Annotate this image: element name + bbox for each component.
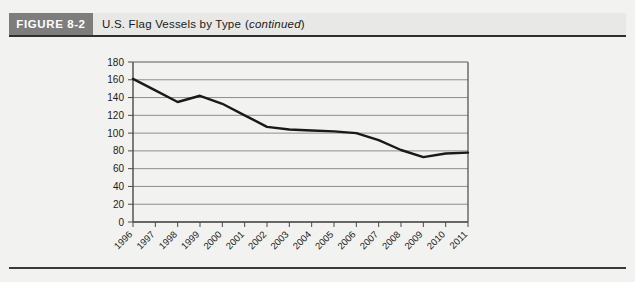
x-axis-tick-label: 2008 bbox=[380, 229, 403, 252]
figure-caption-text: U.S. Flag Vessels by Type bbox=[102, 18, 241, 30]
line-chart: 0204060801001201401601801996199719981999… bbox=[9, 38, 626, 268]
y-axis-tick-label: 100 bbox=[107, 128, 124, 139]
x-axis-tick-label: 2007 bbox=[357, 229, 380, 252]
x-axis-tick-label: 2010 bbox=[424, 229, 447, 252]
x-axis-tick-label: 1998 bbox=[156, 229, 179, 252]
x-axis-tick-label: 2000 bbox=[201, 229, 224, 252]
x-axis-tick-label: 1999 bbox=[179, 229, 202, 252]
y-axis-tick-label: 180 bbox=[107, 57, 124, 68]
y-axis-tick-label: 40 bbox=[113, 181, 125, 192]
y-axis-tick-label: 80 bbox=[113, 145, 125, 156]
x-axis-tick-label: 2009 bbox=[402, 229, 425, 252]
caption-close-paren: ) bbox=[301, 18, 305, 30]
figure-caption: U.S. Flag Vessels by Type (continued) bbox=[93, 13, 626, 35]
caption-continued-text: continued bbox=[249, 18, 301, 30]
plot-area-wrapper: 0204060801001201401601801996199719981999… bbox=[9, 38, 626, 268]
x-axis-tick-label: 2004 bbox=[290, 229, 313, 252]
y-axis-tick-label: 20 bbox=[113, 199, 125, 210]
chart-body: 0204060801001201401601801996199719981999… bbox=[9, 38, 626, 268]
y-axis-tick-label: 140 bbox=[107, 92, 124, 103]
x-axis-tick-label: 1997 bbox=[134, 229, 157, 252]
figure-header: FIGURE 8-2 U.S. Flag Vessels by Type (co… bbox=[9, 13, 626, 35]
y-axis-tick-label: 160 bbox=[107, 74, 124, 85]
figure-number-badge: FIGURE 8-2 bbox=[9, 13, 93, 35]
figure-container: FIGURE 8-2 U.S. Flag Vessels by Type (co… bbox=[0, 0, 635, 282]
x-axis-tick-label: 2003 bbox=[268, 229, 291, 252]
y-axis-tick-label: 60 bbox=[113, 163, 125, 174]
figure-bottom-rule bbox=[9, 267, 626, 269]
x-axis-tick-label: 2011 bbox=[447, 229, 469, 251]
y-axis-tick-label: 0 bbox=[118, 217, 124, 228]
x-axis-tick-label: 1996 bbox=[112, 229, 135, 252]
x-axis-tick-label: 2001 bbox=[223, 229, 246, 252]
data-line-series bbox=[133, 79, 468, 157]
x-axis-tick-label: 2006 bbox=[335, 229, 358, 252]
x-axis-tick-label: 2002 bbox=[246, 229, 269, 252]
y-axis-tick-label: 120 bbox=[107, 110, 124, 121]
x-axis-tick-label: 2005 bbox=[313, 229, 336, 252]
